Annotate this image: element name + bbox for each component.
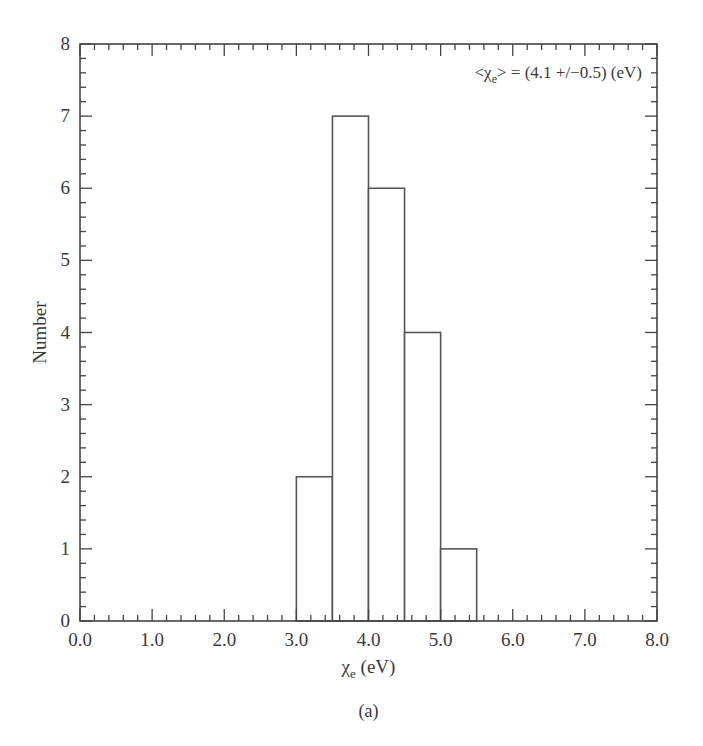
histogram-bar	[332, 116, 368, 621]
x-tick-label: 6.0	[501, 629, 525, 650]
x-tick-label: 5.0	[429, 629, 453, 650]
y-tick-label: 3	[61, 394, 71, 415]
y-tick-label: 2	[61, 466, 71, 487]
histogram-bar	[296, 477, 332, 621]
y-tick-label: 5	[61, 249, 71, 270]
x-axis-title: χe (eV)	[341, 656, 396, 681]
histogram-bar	[369, 188, 405, 621]
histogram-chart: 0.01.02.03.04.05.06.07.08.0 012345678 <χ…	[0, 0, 703, 746]
x-tick-label: 4.0	[357, 629, 381, 650]
histogram-bar	[405, 333, 441, 622]
x-tick-label: 7.0	[573, 629, 597, 650]
x-tick-label: 2.0	[212, 629, 236, 650]
y-axis-title: Number	[29, 301, 50, 364]
x-tick-label: 0.0	[68, 629, 92, 650]
mean-annotation: <χe> = (4.1 +/−0.5) (eV)	[474, 63, 642, 86]
histogram-bar	[441, 549, 477, 621]
y-tick-label: 8	[61, 33, 71, 54]
x-tick-label: 3.0	[285, 629, 309, 650]
y-tick-labels: 012345678	[61, 33, 71, 631]
histogram-bars	[296, 116, 476, 621]
x-tick-label: 1.0	[140, 629, 164, 650]
y-tick-label: 0	[61, 610, 71, 631]
x-tick-labels: 0.01.02.03.04.05.06.07.08.0	[68, 629, 669, 650]
y-tick-label: 6	[61, 177, 71, 198]
y-tick-label: 7	[61, 105, 71, 126]
figure-caption: (a)	[359, 701, 379, 722]
x-tick-label: 8.0	[645, 629, 669, 650]
y-tick-label: 1	[61, 538, 71, 559]
y-tick-label: 4	[61, 322, 71, 343]
